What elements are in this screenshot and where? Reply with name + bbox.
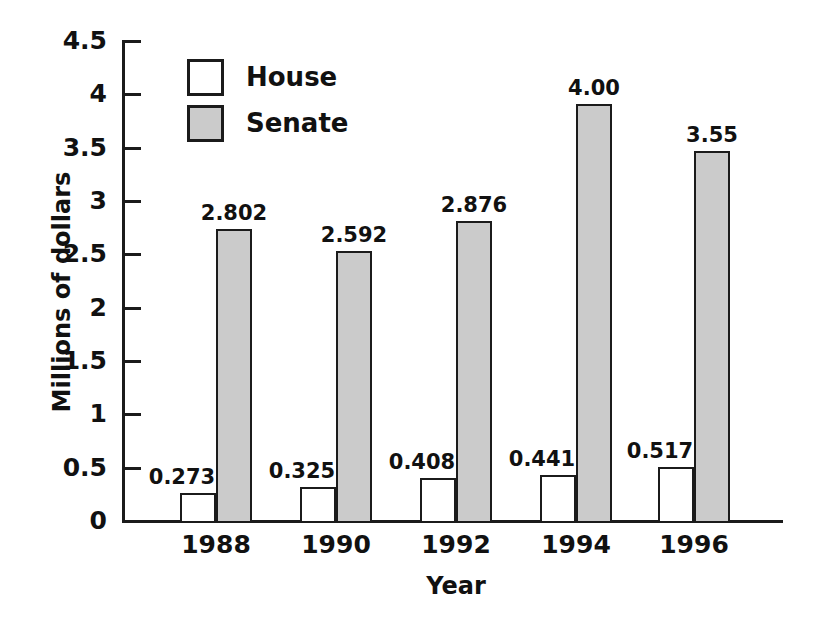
bar-house-1992	[420, 478, 456, 523]
x-axis-tick-label: 1996	[634, 530, 754, 559]
bar-value-label: 0.273	[139, 465, 225, 489]
y-axis-tick	[125, 40, 141, 43]
bar-value-label: 4.00	[551, 76, 637, 100]
bar-senate-1990	[336, 251, 372, 523]
legend-swatch-senate-icon	[187, 105, 224, 142]
bar-value-label: 2.802	[191, 201, 277, 225]
legend-item-senate: Senate	[187, 100, 348, 146]
bar-value-label: 2.592	[311, 223, 397, 247]
y-axis-tick-label: 4	[0, 81, 107, 106]
y-axis-tick-label: 0	[0, 508, 107, 533]
x-axis-tick-label: 1988	[156, 530, 276, 559]
legend-item-house: House	[187, 54, 348, 100]
y-axis-title: Millions of dollars	[48, 142, 76, 442]
bar-chart: 00.511.522.533.544.5 Millions of dollars…	[0, 0, 815, 617]
bar-value-label: 3.55	[669, 123, 755, 147]
bar-value-label: 0.517	[617, 439, 703, 463]
y-axis-tick	[125, 253, 141, 256]
bar-house-1988	[180, 493, 216, 523]
bar-value-label: 0.408	[379, 450, 465, 474]
x-axis-tick-label: 1992	[396, 530, 516, 559]
x-axis-tick-label: 1994	[516, 530, 636, 559]
bar-value-label: 2.876	[431, 193, 517, 217]
y-axis-tick-label: 4.5	[0, 28, 107, 53]
y-axis-tick-label: 0.5	[0, 455, 107, 480]
y-axis-tick	[125, 147, 141, 150]
x-axis-title: Year	[396, 572, 516, 600]
y-axis-tick	[125, 360, 141, 363]
bar-senate-1996	[694, 151, 730, 523]
bar-house-1990	[300, 487, 336, 523]
bar-house-1994	[540, 475, 576, 523]
legend-swatch-house-icon	[187, 59, 224, 96]
bar-value-label: 0.441	[499, 447, 585, 471]
x-axis-tick-label: 1990	[276, 530, 396, 559]
y-axis-line	[122, 40, 125, 523]
legend: House Senate	[187, 54, 348, 146]
y-axis-tick	[125, 413, 141, 416]
legend-label-house: House	[246, 62, 337, 92]
y-axis-tick	[125, 93, 141, 96]
bar-senate-1988	[216, 229, 252, 523]
y-axis-tick	[125, 200, 141, 203]
bar-senate-1992	[456, 221, 492, 523]
bar-house-1996	[658, 467, 694, 523]
y-axis-tick	[125, 307, 141, 310]
bar-senate-1994	[576, 104, 612, 523]
legend-label-senate: Senate	[246, 108, 348, 138]
bar-value-label: 0.325	[259, 459, 345, 483]
